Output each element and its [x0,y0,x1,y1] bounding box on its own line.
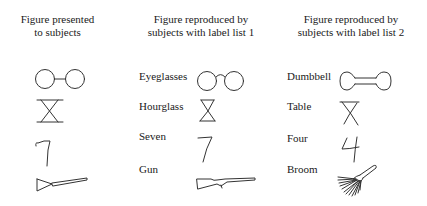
label-four: Four [287,132,308,145]
label-dumbbell: Dumbbell [287,70,331,83]
label-seven: Seven [139,130,166,143]
label-eyeglasses: Eyeglasses [139,70,187,83]
header-line: Figure presented [0,13,115,26]
eyeglasses-original-figure [34,68,88,90]
column-header-label-list-1: Figure reproduced by subjects with label… [130,13,272,39]
header-line: Figure reproduced by [280,13,422,26]
header-line: subjects with label list 1 [130,26,272,39]
header-line: Figure reproduced by [130,13,272,26]
broom-reproduced-figure [336,163,380,198]
eyeglasses-reproduced-figure [196,68,246,92]
table-reproduced-figure [339,100,361,126]
dumbbell-reproduced-figure [339,70,393,92]
column-header-presented: Figure presented to subjects [0,13,115,39]
gun-original-figure [35,175,90,193]
label-hourglass: Hourglass [139,100,183,113]
column-header-label-list-2: Figure reproduced by subjects with label… [280,13,422,39]
label-table: Table [287,100,311,113]
hourglass-original-figure [36,98,64,124]
header-line: subjects with label list 2 [280,26,422,39]
header-line: to subjects [0,26,115,39]
label-broom: Broom [287,163,318,176]
four-reproduced-figure [340,135,362,165]
hourglass-reproduced-figure [198,98,218,124]
gun-reproduced-figure [195,174,259,192]
label-gun: Gun [139,163,158,176]
seven-original-figure [34,138,58,168]
seven-reproduced-figure [196,134,216,164]
